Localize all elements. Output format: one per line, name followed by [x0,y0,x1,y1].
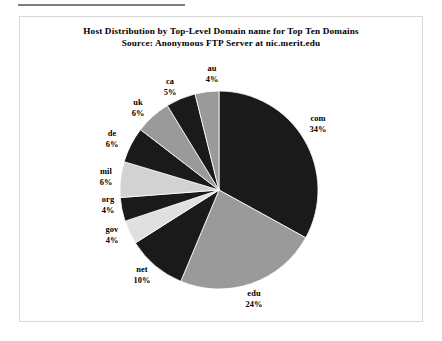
slice-label-gov-name: gov [92,224,132,235]
slice-label-de-name: de [92,128,132,139]
slice-label-uk-pct: 6% [118,108,158,119]
slice-label-ca-name: ca [150,76,190,87]
slice-label-com: com 34% [291,113,345,136]
slice-label-gov: gov 4% [92,224,132,247]
slice-label-com-name: com [291,113,345,124]
chart-title-block: Host Distribution by Top-Level Domain na… [19,26,423,50]
pie-svg [119,90,319,290]
slice-label-mil-name: mil [86,166,126,177]
slice-label-net-pct: 10% [120,275,164,286]
slice-label-gov-pct: 4% [92,235,132,246]
slice-label-au-name: au [192,63,232,74]
slice-label-org-name: org [88,194,128,205]
chart-title: Host Distribution by Top-Level Domain na… [19,26,423,38]
slice-label-com-pct: 34% [291,124,345,135]
top-horizontal-rule [18,4,185,6]
slice-label-edu-name: edu [232,288,276,299]
slice-label-au: au 4% [192,63,232,86]
slice-label-ca: ca 5% [150,76,190,99]
slice-label-edu: edu 24% [232,288,276,311]
slice-label-au-pct: 4% [192,74,232,85]
pie-chart [119,90,319,290]
slice-label-de: de 6% [92,128,132,151]
slice-label-uk-name: uk [118,97,158,108]
slice-label-ca-pct: 5% [150,87,190,98]
slice-label-org: org 4% [88,194,128,217]
slice-label-uk: uk 6% [118,97,158,120]
slice-label-de-pct: 6% [92,139,132,150]
slice-label-net: net 10% [120,264,164,287]
chart-subtitle: Source: Anonymous FTP Server at nic.meri… [19,38,423,50]
slice-label-mil: mil 6% [86,166,126,189]
slice-label-mil-pct: 6% [86,177,126,188]
slice-label-net-name: net [120,264,164,275]
slice-label-edu-pct: 24% [232,299,276,310]
slice-label-org-pct: 4% [88,205,128,216]
pie-slice-group [120,91,318,289]
